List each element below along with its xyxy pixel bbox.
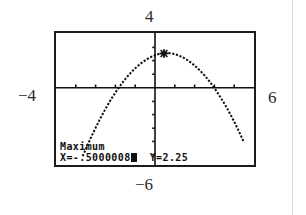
readout-y-value: Y=2.25 (150, 152, 189, 163)
readout-x-value: X=-.5000008 (60, 152, 131, 163)
readout-values: X=-.5000008Y=2.25 (60, 152, 252, 163)
text-cursor-block (131, 153, 137, 162)
page-edge-line (292, 0, 293, 215)
calculator-screenshot-page: 4 −4 6 −6 (0, 0, 306, 215)
maximum-cursor-marker (160, 49, 169, 58)
calculator-screen: Maximum X=-.5000008Y=2.25 (54, 31, 256, 167)
calculator-readout: Maximum X=-.5000008Y=2.25 (60, 141, 252, 163)
window-label-xmin: −4 (18, 87, 36, 104)
window-label-xmax: 6 (268, 89, 277, 106)
readout-title: Maximum (60, 141, 252, 152)
window-label-ymax: 4 (145, 8, 154, 25)
window-label-ymin: −6 (135, 176, 153, 193)
